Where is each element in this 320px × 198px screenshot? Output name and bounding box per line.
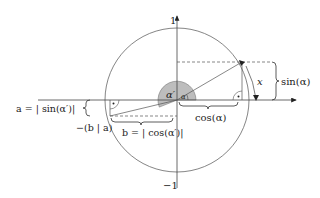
label-a-equation: a = | sin(α′)| — [16, 103, 75, 115]
y-axis-label-bottom: −1 — [163, 180, 178, 191]
radius-alpha-prime — [110, 100, 177, 116]
label-point-neg: −(b | a) — [76, 122, 112, 134]
y-axis-label-top: 1 — [170, 15, 176, 26]
label-x: x — [257, 76, 263, 87]
right-angle-dot-q — [113, 103, 115, 105]
brace-cos — [179, 102, 238, 109]
radius-alpha — [177, 62, 242, 100]
unit-circle-diagram: 1 −1 α′ α x sin(α) cos(α) a = | sin(α′)|… — [0, 0, 320, 198]
right-angle-marker-p — [233, 91, 242, 100]
right-angle-marker-q — [110, 100, 119, 109]
arc-x-arrow — [246, 66, 256, 99]
brace-sin — [272, 62, 279, 100]
label-cos-alpha: cos(α) — [195, 112, 226, 123]
label-sin-alpha: sin(α) — [281, 76, 310, 87]
right-angle-dot-p — [238, 96, 240, 98]
angle-alpha-prime-label: α′ — [166, 89, 176, 100]
brace-b — [111, 118, 173, 125]
label-b-equation: b = | cos(α′)| — [122, 127, 183, 139]
angle-alpha-label: α — [181, 93, 186, 101]
brace-a — [83, 100, 90, 116]
